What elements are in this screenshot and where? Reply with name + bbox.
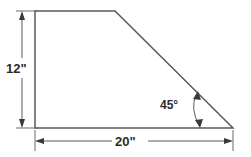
geometry-diagram: 12" 20" 45° (0, 0, 251, 157)
trapezoid-shape (35, 11, 233, 128)
arrow-head-left (35, 138, 44, 144)
arrow-head-right (224, 138, 233, 144)
arrow-head-up (19, 11, 25, 20)
width-dimension-label: 20" (115, 134, 136, 149)
arrow-head-down (19, 119, 25, 128)
angle-label: 45° (160, 98, 178, 112)
trapezoid-figure: 12" 20" 45° (0, 0, 251, 157)
height-dimension-label: 12" (6, 61, 27, 76)
